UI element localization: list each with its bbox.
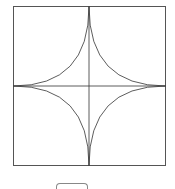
arc-top-left xyxy=(14,7,90,87)
diagram-canvas xyxy=(0,0,175,189)
arc-bottom-left xyxy=(14,86,90,166)
arc-top-right xyxy=(89,7,166,87)
partial-button[interactable] xyxy=(56,183,88,189)
arc-bottom-right xyxy=(89,86,166,166)
